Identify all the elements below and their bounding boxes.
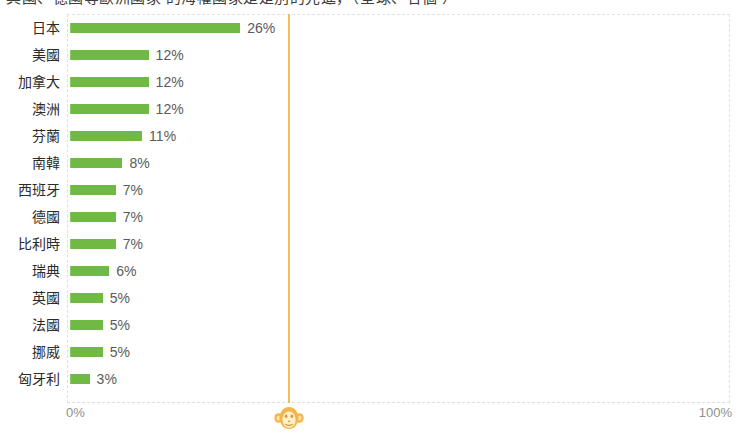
bar-value-label: 8% bbox=[129, 155, 149, 171]
bar-value-label: 6% bbox=[116, 263, 136, 279]
bar-value-label: 26% bbox=[247, 20, 275, 36]
category-label: 匈牙利 bbox=[0, 371, 60, 387]
table-row: 日本 26% bbox=[0, 14, 754, 41]
category-label: 英國 bbox=[0, 290, 60, 306]
bar bbox=[70, 212, 116, 222]
bar-track: 5% bbox=[70, 284, 754, 311]
bar-track: 7% bbox=[70, 203, 754, 230]
chart-container: 其國、德國等歐洲國家 的海權國家是是別的先進，（全球、各個 ） 日本 26% bbox=[0, 0, 754, 438]
bar bbox=[70, 347, 103, 357]
bar-value-label: 5% bbox=[110, 344, 130, 360]
bar-track: 12% bbox=[70, 95, 754, 122]
category-label: 日本 bbox=[0, 20, 60, 36]
table-row: 德國 7% bbox=[0, 203, 754, 230]
table-row: 比利時 7% bbox=[0, 230, 754, 257]
bar-value-label: 7% bbox=[123, 182, 143, 198]
table-row: 法國 5% bbox=[0, 311, 754, 338]
bar bbox=[70, 131, 142, 141]
category-label: 德國 bbox=[0, 209, 60, 225]
table-row: 美國 12% bbox=[0, 41, 754, 68]
table-row: 南韓 8% bbox=[0, 149, 754, 176]
bar-value-label: 7% bbox=[123, 209, 143, 225]
bar-value-label: 12% bbox=[156, 74, 184, 90]
bar-rows: 日本 26% 美國 12% 加拿大 12% 澳洲 12% bbox=[0, 14, 754, 403]
bar bbox=[70, 239, 116, 249]
bar bbox=[70, 320, 103, 330]
bar bbox=[70, 158, 122, 168]
bar bbox=[70, 266, 109, 276]
bar bbox=[70, 374, 90, 384]
bar-value-label: 7% bbox=[123, 236, 143, 252]
bar-value-label: 12% bbox=[156, 101, 184, 117]
bar bbox=[70, 50, 149, 60]
category-label: 加拿大 bbox=[0, 74, 60, 90]
table-row: 芬蘭 11% bbox=[0, 122, 754, 149]
table-row: 澳洲 12% bbox=[0, 95, 754, 122]
bar-value-label: 12% bbox=[156, 47, 184, 63]
x-axis-tick-max: 100% bbox=[699, 405, 732, 421]
table-row: 加拿大 12% bbox=[0, 68, 754, 95]
table-row: 瑞典 6% bbox=[0, 257, 754, 284]
chart-title-strip: 其國、德國等歐洲國家 的海權國家是是別的先進，（全球、各個 ） bbox=[0, 0, 754, 9]
bar-value-label: 5% bbox=[110, 317, 130, 333]
bar-track: 26% bbox=[70, 14, 754, 41]
category-label: 比利時 bbox=[0, 236, 60, 252]
bar-track: 12% bbox=[70, 68, 754, 95]
table-row: 英國 5% bbox=[0, 284, 754, 311]
x-axis: 0% 100% bbox=[0, 405, 754, 425]
page-title: 其國、德國等歐洲國家 的海權國家是是別的先進，（全球、各個 ） bbox=[6, 0, 458, 8]
bar-track: 5% bbox=[70, 338, 754, 365]
bar-track: 12% bbox=[70, 41, 754, 68]
table-row: 匈牙利 3% bbox=[0, 365, 754, 392]
category-label: 澳洲 bbox=[0, 101, 60, 117]
bar-track: 3% bbox=[70, 365, 754, 392]
category-label: 南韓 bbox=[0, 155, 60, 171]
bar-track: 8% bbox=[70, 149, 754, 176]
bar-value-label: 11% bbox=[149, 128, 176, 144]
bar-track: 11% bbox=[70, 122, 754, 149]
bar-track: 7% bbox=[70, 176, 754, 203]
bar-value-label: 3% bbox=[97, 371, 117, 387]
category-label: 西班牙 bbox=[0, 182, 60, 198]
bar-track: 5% bbox=[70, 311, 754, 338]
category-label: 瑞典 bbox=[0, 263, 60, 279]
category-label: 法國 bbox=[0, 317, 60, 333]
bar bbox=[70, 77, 149, 87]
bar bbox=[70, 185, 116, 195]
bar bbox=[70, 104, 149, 114]
bar-value-label: 5% bbox=[110, 290, 130, 306]
x-axis-tick-min: 0% bbox=[66, 405, 85, 421]
category-label: 美國 bbox=[0, 47, 60, 63]
bar bbox=[70, 23, 240, 33]
table-row: 西班牙 7% bbox=[0, 176, 754, 203]
category-label: 挪威 bbox=[0, 344, 60, 360]
table-row: 挪威 5% bbox=[0, 338, 754, 365]
bar bbox=[70, 293, 103, 303]
bar-track: 6% bbox=[70, 257, 754, 284]
category-label: 芬蘭 bbox=[0, 128, 60, 144]
bar-track: 7% bbox=[70, 230, 754, 257]
